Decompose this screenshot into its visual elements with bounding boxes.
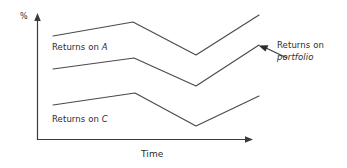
y-axis-label: %: [20, 12, 28, 21]
series-lines-group: [53, 15, 259, 126]
series-label-returns-on-a: Returns on A: [52, 42, 108, 52]
series-c-prefix: Returns on: [52, 114, 102, 124]
series-a-prefix: Returns on: [52, 42, 102, 52]
portfolio-annotation-line1: Returns on: [277, 40, 324, 52]
series-a-symbol: A: [102, 42, 108, 52]
chart-plot-area: [0, 0, 347, 168]
y-axis-arrowhead-icon: [34, 13, 41, 21]
portfolio-annotation-line2: portfolio: [277, 52, 324, 64]
x-axis-label: Time: [141, 149, 163, 159]
x-axis-arrowhead-icon: [245, 136, 253, 143]
annotation-returns-on-portfolio: Returns onportfolio: [277, 40, 324, 63]
series-label-returns-on-c: Returns on C: [52, 114, 108, 124]
series-c-symbol: C: [102, 114, 108, 124]
returns-line-chart: % Time Returns on A Returns on C Returns…: [0, 0, 347, 168]
